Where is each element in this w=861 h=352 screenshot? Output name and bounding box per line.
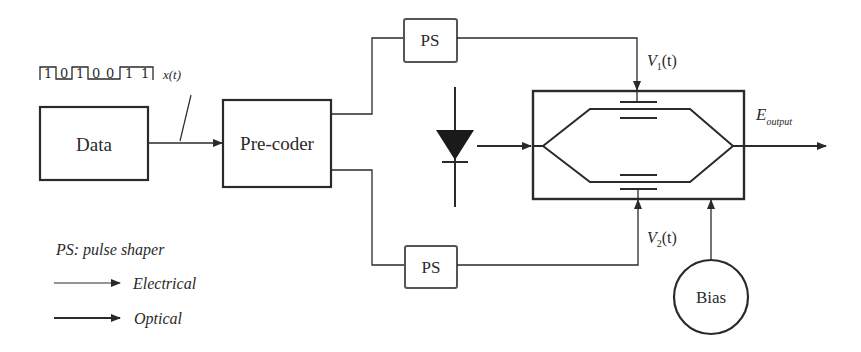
modulator-block-diagram: 1 0 1 0 0 1 1 x(t) Data Pre-coder PS PS …: [0, 0, 861, 352]
legend: PS: pulse shaper Electrical Optical: [54, 241, 197, 328]
v1-label: V1(t): [647, 52, 677, 72]
bit-4: 0: [106, 66, 114, 81]
bias-label: Bias: [696, 288, 726, 307]
legend-ps-note: PS: pulse shaper: [55, 241, 165, 259]
laser-diode-icon: [436, 87, 474, 207]
e-output-label: Eoutput: [755, 105, 792, 127]
v2-drive-wire: [457, 200, 638, 265]
data-block: Data: [40, 107, 148, 180]
bit-6: 1: [141, 66, 149, 81]
x-t-label: x(t): [162, 67, 181, 82]
mach-zehnder-modulator: [533, 91, 744, 199]
v1-drive-wire: [457, 38, 637, 90]
precoder-block-label: Pre-coder: [240, 133, 315, 154]
bit-0: 1: [44, 66, 52, 81]
bit-1: 0: [60, 66, 68, 81]
bias-source: Bias: [674, 260, 748, 334]
legend-optical-label: Optical: [134, 310, 183, 328]
precoder-bottom-wire: [331, 170, 405, 265]
bit-waveform: 1 0 1 0 0 1 1: [40, 66, 153, 81]
ps-top-label: PS: [421, 31, 440, 50]
data-block-label: Data: [76, 134, 112, 155]
ps-bottom-label: PS: [422, 258, 441, 277]
pulse-shaper-top: PS: [404, 19, 457, 62]
mzm-lower-arm: [543, 146, 733, 182]
precoder-top-wire: [331, 38, 404, 114]
v2-label: V2(t): [647, 229, 677, 249]
legend-electrical-label: Electrical: [132, 275, 197, 292]
bit-5: 1: [125, 66, 133, 81]
mzm-upper-arm: [533, 109, 744, 146]
signal-pointer-line: [180, 95, 191, 141]
bit-3: 0: [92, 66, 100, 81]
pulse-shaper-bottom: PS: [405, 246, 457, 288]
precoder-block: Pre-coder: [223, 100, 331, 187]
bit-2: 1: [76, 66, 84, 81]
